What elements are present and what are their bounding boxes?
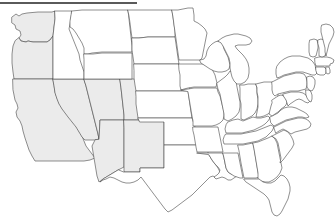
state-CT[interactable] bbox=[316, 67, 326, 75]
state-NJ[interactable] bbox=[307, 76, 315, 91]
state-VT[interactable] bbox=[309, 39, 318, 57]
state-IN[interactable] bbox=[240, 84, 258, 120]
state-NM[interactable] bbox=[124, 120, 164, 172]
state-SD[interactable] bbox=[132, 37, 179, 64]
state-RI[interactable] bbox=[326, 67, 330, 74]
state-WY[interactable] bbox=[84, 53, 132, 79]
state-WA[interactable] bbox=[12, 11, 55, 42]
state-KS[interactable] bbox=[136, 91, 192, 118]
state-ND[interactable] bbox=[128, 10, 175, 38]
state-MA[interactable] bbox=[315, 57, 334, 66]
state-MT[interactable] bbox=[70, 10, 132, 54]
state-AR[interactable] bbox=[193, 127, 223, 152]
state-OR[interactable] bbox=[12, 36, 53, 79]
us-choropleth-map bbox=[0, 0, 335, 220]
map-canvas bbox=[0, 0, 335, 220]
